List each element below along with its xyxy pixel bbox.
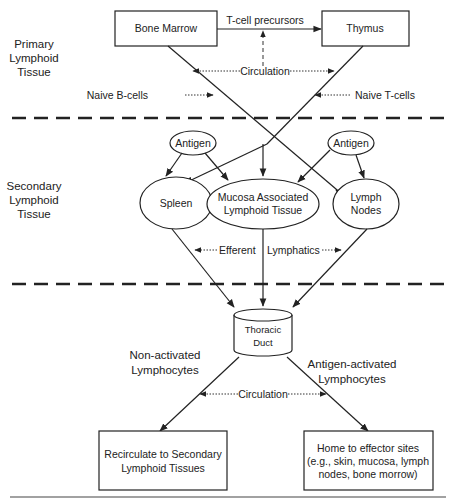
malt-label-line1: Mucosa Associated xyxy=(218,191,309,203)
edge-antigen-right-to-malt xyxy=(298,150,330,182)
naive-b-cells-label: Naive B-cells xyxy=(87,89,148,101)
region-secondary-line2: Lymphoid xyxy=(9,194,58,206)
thoracic-duct-label-line1: Thoracic xyxy=(245,324,282,335)
edge-spleen-to-thoracic-duct xyxy=(172,229,234,307)
region-primary-line1: Primary xyxy=(14,38,54,50)
lymph-nodes-label-line2: Nodes xyxy=(351,204,381,216)
edge-antigen-to-malt xyxy=(205,153,228,180)
lymph-nodes-label-line1: Lymph xyxy=(350,191,381,203)
efferent-label: Efferent xyxy=(219,244,256,256)
thymus-label: Thymus xyxy=(346,22,383,34)
non-activated-label-line2: Lymphocytes xyxy=(131,364,199,376)
t-cell-precursors-label: T-cell precursors xyxy=(226,14,304,26)
naive-t-cells-label: Naive T-cells xyxy=(355,89,415,101)
spleen-label: Spleen xyxy=(160,197,193,209)
thoracic-duct-label-line2: Duct xyxy=(253,337,273,348)
antigen-left-label: Antigen xyxy=(175,137,211,149)
recirculate-box xyxy=(99,431,227,490)
region-primary-line2: Lymphoid xyxy=(9,52,58,64)
region-label-secondary: Secondary Lymphoid Tissue xyxy=(7,180,62,220)
lymphocyte-circulation-diagram: Primary Lymphoid Tissue Secondary Lympho… xyxy=(0,0,454,504)
circulation-top-label: Circulation xyxy=(240,65,290,77)
home-label-line3: nodes, bone morrow) xyxy=(318,468,417,480)
circulation-bottom-label: Circulation xyxy=(238,388,288,400)
region-label-primary: Primary Lymphoid Tissue xyxy=(9,38,58,78)
bone-marrow-label: Bone Marrow xyxy=(135,22,198,34)
lymphatics-label: Lymphatics xyxy=(267,244,320,256)
non-activated-label-line1: Non-activated xyxy=(130,349,201,361)
region-secondary-line1: Secondary xyxy=(7,180,62,192)
malt-label-line2: Lymphoid Tissue xyxy=(224,204,303,216)
recirculate-label-line2: Lymphoid Tissues xyxy=(121,462,205,474)
region-primary-line3: Tissue xyxy=(17,66,50,78)
antigen-activated-label-line2: Lymphocytes xyxy=(318,373,386,385)
region-secondary-line3: Tissue xyxy=(17,208,50,220)
antigen-right-label: Antigen xyxy=(333,137,369,149)
home-label-line1: Home to effector sites xyxy=(317,442,419,454)
edge-antigen-right-to-lymph-nodes xyxy=(356,155,364,178)
antigen-activated-label-line1: Antigen-activated xyxy=(308,358,397,370)
home-label-line2: (e.g., skin, mucosa, lymph xyxy=(307,455,429,467)
edge-antigen-to-spleen xyxy=(166,153,182,176)
edge-lymph-nodes-to-thoracic-duct xyxy=(293,229,367,307)
recirculate-label-line1: Recirculate to Secondary xyxy=(104,448,222,460)
